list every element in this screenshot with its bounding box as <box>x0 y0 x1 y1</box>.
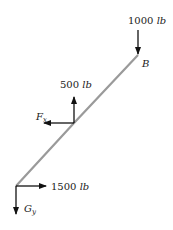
force-label-1500lb: 1500 lb <box>51 181 89 192</box>
force-label-500lb: 500 lb <box>60 79 92 90</box>
force-label-1000lb: 1000 lb <box>128 15 166 26</box>
force-label-gy: Gy <box>24 203 37 216</box>
force-label-fx: Fx <box>35 111 47 124</box>
free-body-diagram: 1000 lb B 500 lb Fx 1500 lb Gy <box>0 0 173 230</box>
member-bar <box>16 55 138 186</box>
point-label-b: B <box>141 58 149 69</box>
